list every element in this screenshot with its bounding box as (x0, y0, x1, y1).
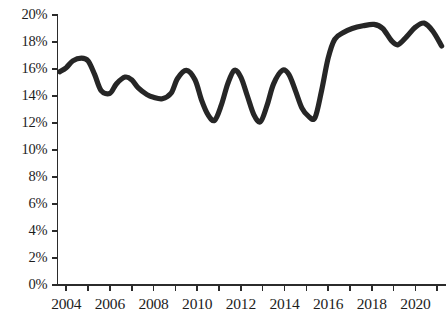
y-axis-label: 8% (29, 168, 48, 184)
x-axis-label: 2010 (182, 295, 213, 312)
x-axis-label: 2014 (269, 295, 300, 312)
x-axis-label: 2018 (357, 295, 388, 312)
x-axis-label: 2008 (138, 295, 169, 312)
y-axis-label: 2% (29, 249, 48, 265)
y-axis-tick-labels: 20%18%16%14%12%10%8%6%4%2%0% (22, 6, 48, 292)
x-axis-label: 2016 (313, 295, 344, 312)
x-axis-tick-labels: 200420062008201020122014201620182020 (51, 295, 431, 312)
y-axis-label: 14% (22, 87, 48, 103)
x-axis-label: 2006 (95, 295, 126, 312)
y-axis-label: 16% (22, 60, 48, 76)
data-series-line (60, 23, 442, 122)
chart-canvas: 20%18%16%14%12%10%8%6%4%2%0% 20042006200… (0, 0, 447, 315)
axis-spines (58, 15, 447, 285)
y-axis-label: 0% (29, 276, 48, 292)
x-axis-ticks (66, 285, 437, 291)
y-axis-label: 6% (29, 195, 48, 211)
y-axis-label: 10% (22, 141, 48, 157)
line-chart: 20%18%16%14%12%10%8%6%4%2%0% 20042006200… (0, 0, 447, 315)
x-axis-label: 2012 (226, 295, 256, 312)
y-axis-label: 4% (29, 222, 48, 238)
y-axis-label: 18% (22, 33, 48, 49)
x-axis-label: 2004 (51, 295, 82, 312)
y-axis-label: 12% (22, 114, 48, 130)
x-axis-label: 2020 (400, 295, 431, 312)
y-axis-label: 20% (22, 6, 48, 22)
y-axis-ticks (52, 15, 58, 285)
